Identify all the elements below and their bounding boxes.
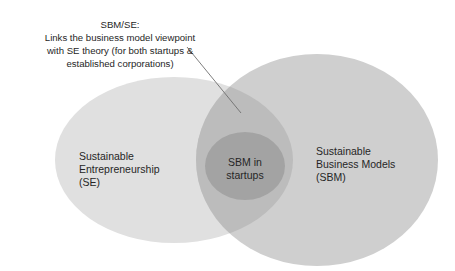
inner-label-line-2: startups <box>205 169 285 182</box>
se-label-line-3: (SE) <box>79 176 160 189</box>
sbm-label: Sustainable Business Models (SBM) <box>316 145 395 184</box>
callout-line-3: established corporations) <box>20 57 220 70</box>
sbm-label-line-1: Sustainable <box>316 145 395 158</box>
inner-label-line-1: SBM in <box>205 156 285 169</box>
se-label: Sustainable Entrepreneurship (SE) <box>79 150 160 189</box>
callout-line-1: Links the business model viewpoint <box>20 31 220 44</box>
se-label-line-1: Sustainable <box>79 150 160 163</box>
sbm-label-line-2: Business Models <box>316 158 395 171</box>
sbm-in-startups-label: SBM in startups <box>205 156 285 182</box>
callout-line-2: with SE theory (for both startups & <box>20 44 220 57</box>
se-label-line-2: Entrepreneurship <box>79 163 160 176</box>
callout-title: SBM/SE: <box>20 18 220 31</box>
sbm-label-line-3: (SBM) <box>316 171 395 184</box>
callout-annotation: SBM/SE: Links the business model viewpoi… <box>20 18 220 70</box>
